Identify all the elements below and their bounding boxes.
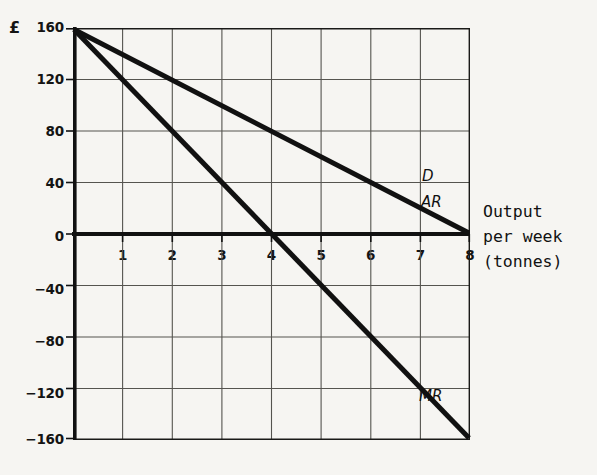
curve-label-mr: MR xyxy=(419,389,442,404)
figure-canvas: £ 160 120 80 40 0 −40 −80 −120 −160 1 2 … xyxy=(0,0,597,475)
y-tick-label: 160 xyxy=(36,21,64,35)
y-tick-label: −120 xyxy=(25,387,64,401)
y-tick-label: 0 xyxy=(55,230,64,244)
curves xyxy=(73,28,470,440)
ar-demand-curve xyxy=(74,30,469,234)
y-tick-label: 40 xyxy=(46,177,64,191)
x-axis-caption: Output per week (tonnes) xyxy=(483,199,562,274)
x-axis-caption-line: Output xyxy=(483,199,562,224)
x-axis-caption-line: per week xyxy=(483,224,562,249)
y-tick-label: 120 xyxy=(36,73,64,87)
y-tick-label: −160 xyxy=(25,433,64,447)
curve-label-demand: D xyxy=(422,169,434,184)
mr-curve xyxy=(74,30,469,439)
y-tick-label: −80 xyxy=(35,335,65,349)
plot-area xyxy=(73,28,470,440)
y-axis-tick-labels: 160 120 80 40 0 −40 −80 −120 −160 xyxy=(0,0,64,475)
curve-label-ar: AR xyxy=(421,195,442,210)
x-axis-caption-line: (tonnes) xyxy=(483,249,562,274)
y-tick-label: −40 xyxy=(35,283,65,297)
y-tick-label: 80 xyxy=(46,125,64,139)
